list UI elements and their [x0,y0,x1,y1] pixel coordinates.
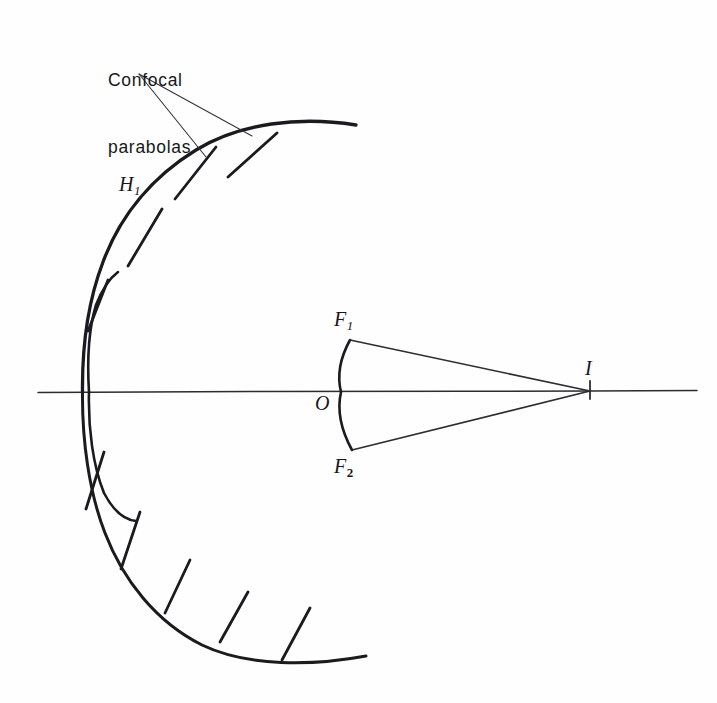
tick-lower-3 [165,560,190,613]
small-arc-group [339,340,352,450]
label-h1: H1 [119,173,140,199]
ray-f1-to-i [350,340,590,391]
tick-lower-5 [282,608,310,660]
optical-axis-line [38,390,697,392]
ray-group [350,340,590,450]
label-f1-letter: F [334,308,346,330]
label-origin: O [315,392,329,415]
tick-upper-2 [128,209,162,266]
label-f2-subscript: 2 [347,465,354,480]
label-image-point: I [585,357,592,380]
label-f1: F1 [334,308,353,334]
label-h1-letter: H [119,173,133,195]
label-f2-letter: F [334,455,346,477]
label-f1-subscript: 1 [347,318,354,333]
label-h1-subscript: 1 [134,183,141,198]
lower-tick-marks-group [86,452,310,660]
label-f2: F2 [334,455,353,481]
caption-line-2: parabolas [108,136,191,158]
outer-parabola-lower [82,392,366,663]
tick-lower-4 [220,592,248,642]
caption-line-1: Confocal [108,69,191,91]
figure-canvas: Confocal parabolas H1 F1 F2 O I [0,0,717,703]
small-mirror-arc [339,340,352,450]
optical-axis-group [38,390,697,392]
ray-f2-to-i [352,391,590,450]
tick-upper-4 [228,133,277,177]
